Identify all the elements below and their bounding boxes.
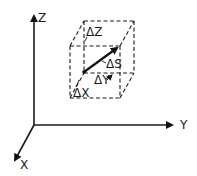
dx-label: ΔX bbox=[73, 86, 89, 100]
dz-label: ΔZ bbox=[86, 25, 102, 39]
dy-label: ΔY bbox=[94, 73, 110, 87]
ds-label: ΔS bbox=[106, 57, 122, 71]
y-axis-label: Y bbox=[179, 118, 188, 132]
x-axis-label: X bbox=[20, 158, 28, 172]
x-axis bbox=[15, 125, 34, 160]
z-axis-label: Z bbox=[38, 11, 46, 25]
coordinate-diagram: Z Y X ΔZ ΔS ΔY ΔX bbox=[0, 0, 197, 176]
